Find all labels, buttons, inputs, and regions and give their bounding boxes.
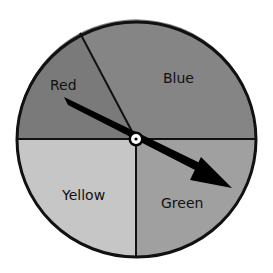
label-green: Green (161, 195, 203, 211)
label-yellow: Yellow (61, 187, 105, 203)
spinner-hub (129, 132, 144, 147)
hub-pin-icon (134, 137, 137, 140)
label-blue: Blue (163, 70, 194, 86)
spinner: Red Blue Yellow Green (0, 0, 273, 273)
spinner-diagram: Red Blue Yellow Green (0, 0, 273, 273)
label-red: Red (50, 77, 77, 93)
